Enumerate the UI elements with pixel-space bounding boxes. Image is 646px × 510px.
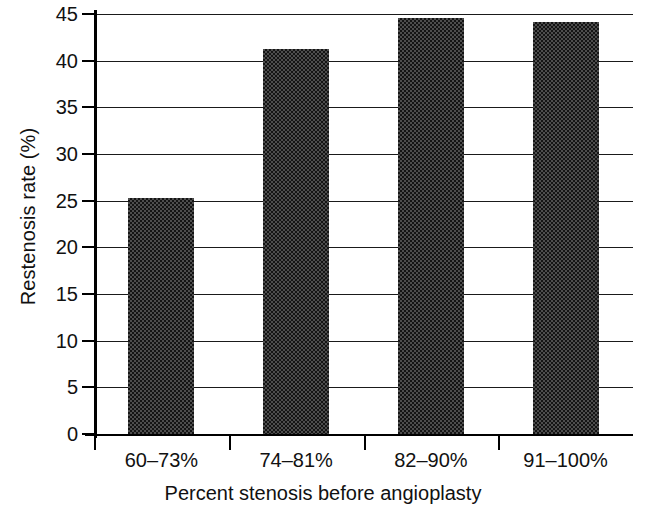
bar [533, 22, 599, 434]
y-tick-label: 15 [30, 284, 78, 304]
x-tick-mark [94, 436, 96, 450]
x-tick-mark [229, 436, 231, 450]
y-tick-mark-35 [82, 106, 94, 108]
y-axis-tick-labels: 051015202530354045 [30, 0, 78, 450]
y-tick-mark-10 [82, 340, 94, 342]
y-tick-mark-15 [82, 293, 94, 295]
x-tick-label: 60–73% [94, 448, 229, 472]
bar [263, 49, 329, 434]
y-tick-label: 30 [30, 144, 78, 164]
y-tick-label: 25 [30, 191, 78, 211]
y-axis-line [94, 10, 97, 438]
y-tick-label: 45 [30, 4, 78, 24]
x-axis-tick-labels: 60–73%74–81%82–90%91–100% [94, 448, 633, 478]
bar [398, 18, 464, 434]
x-axis-title: Percent stenosis before angioplasty [0, 482, 646, 505]
y-tick-label: 0 [30, 424, 78, 444]
y-tick-mark-45 [82, 13, 94, 15]
x-tick-mark [364, 436, 366, 450]
y-tick-label: 40 [30, 51, 78, 71]
bar [128, 198, 194, 434]
y-tick-mark-20 [82, 246, 94, 248]
x-tick-label: 82–90% [364, 448, 499, 472]
y-tick-mark-30 [82, 153, 94, 155]
y-tick-label: 10 [30, 331, 78, 351]
x-tick-mark [498, 436, 500, 450]
bars-layer [94, 14, 633, 434]
y-tick-mark-40 [82, 60, 94, 62]
chart-figure: Restenosis rate (%) 051015202530354045 6… [0, 0, 646, 510]
y-tick-label: 20 [30, 237, 78, 257]
y-tick-label: 35 [30, 97, 78, 117]
x-tick-label: 74–81% [229, 448, 364, 472]
x-tick-label: 91–100% [498, 448, 633, 472]
y-tick-mark-25 [82, 200, 94, 202]
y-tick-mark-5 [82, 386, 94, 388]
y-tick-label: 5 [30, 377, 78, 397]
x-axis-line [85, 434, 633, 436]
